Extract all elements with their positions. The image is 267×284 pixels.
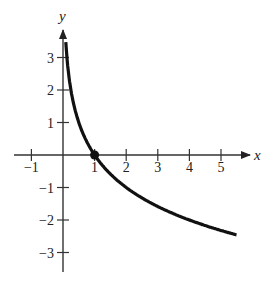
curve-line [66, 42, 237, 235]
y-tick-label: −3 [39, 246, 54, 261]
x-tick-label: 2 [123, 160, 130, 175]
x-ticks: −112345 [24, 149, 225, 175]
y-tick-label: −2 [39, 213, 54, 228]
y-tick-label: 2 [47, 83, 54, 98]
marked-point [90, 151, 99, 160]
x-tick-label: 4 [186, 160, 193, 175]
x-tick-label: −1 [24, 160, 39, 175]
x-tick-label: 3 [154, 160, 161, 175]
y-tick-label: 1 [47, 116, 54, 131]
x-tick-label: 5 [218, 160, 225, 175]
y-tick-label: 3 [47, 51, 54, 66]
x-axis-label: x [253, 147, 261, 163]
y-axis-label: y [57, 8, 66, 24]
y-tick-label: −1 [39, 181, 54, 196]
chart: −112345 321−1−2−3 x y [0, 0, 267, 284]
x-tick-label: 1 [91, 160, 98, 175]
